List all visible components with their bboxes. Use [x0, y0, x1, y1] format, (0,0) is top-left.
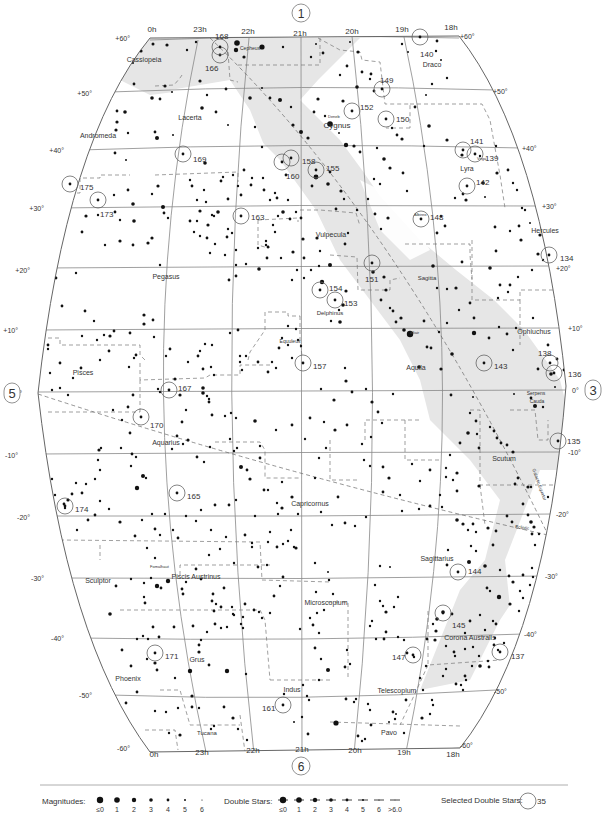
star: [261, 146, 263, 148]
star: [277, 215, 279, 217]
star: [152, 43, 155, 46]
ra-label-bottom: 19h: [397, 748, 410, 757]
star: [506, 333, 509, 336]
star: [529, 584, 531, 586]
star: [534, 544, 536, 546]
ra-label-bottom: 23h: [195, 748, 208, 757]
star: [436, 287, 438, 289]
star: [210, 529, 212, 531]
double-star-id: 169: [193, 155, 207, 164]
star: [466, 431, 470, 435]
star: [245, 263, 247, 265]
star: [168, 732, 170, 734]
star: [143, 596, 145, 598]
star: [507, 169, 510, 172]
star: [444, 225, 447, 228]
double-star-id: 154: [329, 284, 343, 293]
double-star-tick: 1: [297, 806, 301, 813]
star: [531, 269, 533, 271]
star: [281, 481, 283, 483]
star: [379, 565, 381, 567]
star: [351, 391, 354, 394]
star: [242, 55, 245, 58]
ra-label-top: 23h: [193, 25, 206, 34]
star: [142, 313, 145, 316]
star: [219, 548, 221, 550]
star: [464, 675, 467, 678]
star: [71, 493, 74, 496]
star: [47, 344, 50, 347]
star: [403, 639, 405, 641]
star: [400, 137, 403, 140]
star: [153, 661, 156, 664]
ra-label-bottom: 20h: [348, 746, 361, 755]
star: [446, 288, 448, 290]
star: [382, 605, 384, 607]
star: [506, 444, 509, 447]
star: [240, 623, 242, 625]
star: [438, 331, 440, 333]
star: [323, 609, 325, 611]
star: [259, 457, 262, 460]
star: [190, 694, 193, 697]
star: [318, 265, 320, 267]
double-star: [462, 149, 465, 152]
star: [291, 424, 294, 427]
star: [245, 673, 247, 675]
star: [487, 660, 489, 662]
star: [282, 576, 285, 579]
star: [287, 344, 289, 346]
double-star: [483, 362, 486, 365]
star: [489, 426, 491, 428]
constellation-label: Scutum: [492, 455, 516, 462]
magnitude-tick: 3: [149, 806, 153, 813]
double-star: [381, 88, 384, 91]
star: [379, 183, 381, 185]
star: [339, 74, 341, 76]
star: [150, 236, 153, 239]
marker-left[interactable]: 5: [4, 383, 20, 403]
star: [464, 648, 466, 650]
star: [431, 264, 435, 268]
marker-bottom[interactable]: 6: [292, 757, 310, 775]
star: [369, 78, 371, 80]
star: [287, 325, 289, 327]
star: [359, 151, 362, 154]
star: [291, 250, 294, 253]
star: [287, 199, 289, 201]
star: [320, 388, 322, 390]
star: [172, 529, 174, 531]
star: [142, 635, 144, 637]
star: [381, 422, 383, 424]
star: [198, 79, 201, 82]
double-star: [499, 651, 502, 654]
marker-right[interactable]: 3: [585, 380, 601, 400]
star: [325, 447, 327, 449]
star: [500, 442, 503, 445]
star: [61, 305, 64, 308]
double-star-id: 145: [452, 621, 466, 630]
star: [274, 231, 276, 233]
marker-top[interactable]: 1: [292, 4, 310, 22]
star: [492, 620, 494, 622]
star: [235, 249, 237, 251]
star: [426, 346, 429, 349]
star: [311, 185, 314, 188]
star: [282, 46, 284, 48]
star: [475, 550, 477, 552]
star: [469, 620, 472, 623]
star: [497, 297, 499, 299]
star: [185, 515, 187, 517]
star-name-label: Fomalhaut: [150, 564, 170, 569]
double-star-id: 149: [380, 76, 394, 85]
double-star-id: 137: [511, 652, 525, 661]
star: [220, 606, 223, 609]
star: [518, 225, 521, 228]
star: [115, 585, 118, 588]
star: [320, 511, 322, 513]
star: [538, 533, 540, 535]
star: [318, 679, 320, 681]
star: [454, 286, 457, 289]
star: [310, 269, 312, 271]
star: [370, 436, 372, 438]
